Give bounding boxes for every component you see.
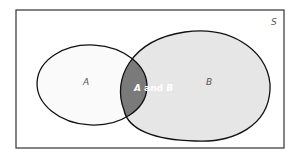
- universe-label-s: S: [271, 17, 277, 27]
- venn-diagram: S A B A and B: [0, 0, 295, 158]
- set-b-label: B: [206, 77, 212, 87]
- set-a-label: A: [82, 77, 89, 87]
- intersection-label: A and B: [133, 83, 173, 93]
